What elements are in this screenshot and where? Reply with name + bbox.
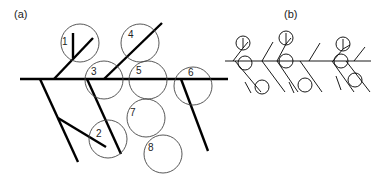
circle-label-8: 8 (148, 142, 154, 153)
panel-b-unit-3 (332, 37, 370, 92)
circle-label-5: 5 (136, 65, 142, 76)
circle-label-7: 7 (130, 107, 136, 118)
circle-label-1: 1 (62, 36, 68, 47)
dot-mark (225, 78, 227, 80)
panel-b (225, 31, 371, 94)
diagram-canvas: 1 2 3 4 5 6 7 8 (0, 0, 386, 180)
circle-8 (144, 135, 182, 173)
circle-label-2: 2 (96, 128, 102, 139)
panel-a: 1 2 3 4 5 6 7 8 (20, 23, 228, 173)
circle-label-6: 6 (188, 67, 194, 78)
panel-b-unit-2 (277, 31, 322, 93)
circle-7 (127, 99, 165, 137)
circle-label-4: 4 (128, 29, 134, 40)
panel-b-unit-1 (233, 36, 285, 94)
circle-label-3: 3 (91, 66, 97, 77)
